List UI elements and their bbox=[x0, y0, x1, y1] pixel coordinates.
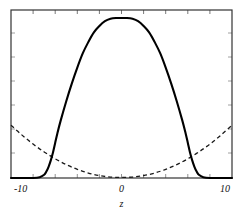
chart-svg: -10 0 10 z bbox=[0, 0, 244, 218]
plot-background bbox=[11, 10, 232, 178]
xtick-label-center: 0 bbox=[119, 183, 124, 194]
chart-figure: -10 0 10 z bbox=[0, 0, 244, 218]
x-axis-title: z bbox=[119, 198, 124, 209]
xtick-label-right: 10 bbox=[220, 183, 230, 194]
xtick-label-left: -10 bbox=[14, 183, 27, 194]
